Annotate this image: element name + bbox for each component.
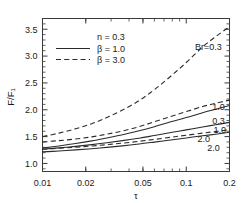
y-tick-label: 1.5 <box>25 132 38 142</box>
curve-label: 1.0 <box>212 102 225 112</box>
legend: n = 0.3 β = 1.0 β = 3.0 <box>56 32 125 65</box>
chart-figure: 0.010.020.050.10.2 1.01.52.02.53.03.5 Br… <box>0 0 248 203</box>
curve-label: Br=0.3 <box>195 42 222 52</box>
y-axis-tick-labels: 1.01.52.02.53.03.5 <box>25 25 38 169</box>
y-tick-label: 3.0 <box>25 51 38 61</box>
x-axis-tick-labels: 0.010.020.050.10.2 <box>34 178 236 188</box>
curve-label: 0.3 <box>212 116 225 126</box>
y-tick-label: 1.0 <box>25 159 38 169</box>
x-tick-label: 0.02 <box>77 178 95 188</box>
y-tick-label: 2.5 <box>25 78 38 88</box>
legend-label-n: n = 0.3 <box>97 32 125 42</box>
y-tick-label: 2.0 <box>25 105 38 115</box>
y-tick-label: 3.5 <box>25 25 38 35</box>
curve-annotations: Br=0.31.00.31.02.02.0 <box>195 42 226 153</box>
x-tick-label: 0.05 <box>134 178 152 188</box>
legend-label-beta-3: β = 3.0 <box>97 55 125 65</box>
y-axis-title: F/F₁ <box>5 88 16 105</box>
x-tick-label: 0.01 <box>34 178 52 188</box>
x-tick-label: 0.2 <box>223 178 236 188</box>
x-tick-label: 0.1 <box>180 178 193 188</box>
x-axis-title: τ <box>134 190 138 201</box>
legend-label-beta-1: β = 1.0 <box>97 44 125 54</box>
curve-label: 2.0 <box>207 143 220 153</box>
line-chart-svg: 0.010.020.050.10.2 1.01.52.02.53.03.5 Br… <box>0 0 248 203</box>
curve-label: 1.0 <box>214 125 227 135</box>
